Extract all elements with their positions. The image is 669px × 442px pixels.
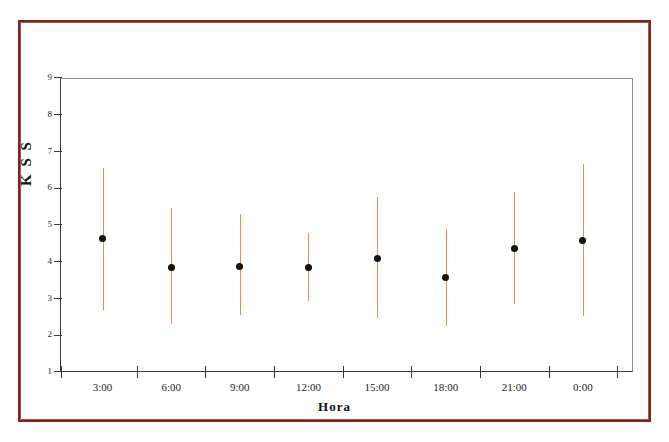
y-axis-tick-label: 9 (36, 72, 52, 82)
y-axis-title: K S S (18, 140, 35, 186)
x-axis-tick (549, 366, 550, 378)
x-axis-tick (343, 366, 344, 378)
data-point (236, 263, 243, 270)
x-axis-title: Hora (0, 399, 669, 415)
x-axis-tick-label: 15:00 (347, 381, 407, 393)
x-axis-tick (411, 366, 412, 378)
y-axis-tick-label: 2 (36, 329, 52, 339)
x-axis-tick-label: 21:00 (484, 381, 544, 393)
y-axis-tick-label: 3 (36, 293, 52, 303)
y-axis-tick-label: 6 (36, 182, 52, 192)
y-axis-tick-label: 8 (36, 109, 52, 119)
x-axis-tick-label: 6:00 (141, 381, 201, 393)
y-axis-tick-label: 4 (36, 256, 52, 266)
kss-hora-errorbar-chart: 123456789 K S S 3:006:009:0012:0015:0018… (0, 0, 669, 442)
y-axis-tick (54, 335, 62, 336)
x-axis-tick (205, 366, 206, 378)
x-axis-tick (137, 366, 138, 378)
x-axis-tick (61, 366, 62, 378)
x-axis-tick (274, 366, 275, 378)
y-axis-tick-label: 5 (36, 219, 52, 229)
x-axis-tick-label: 18:00 (416, 381, 476, 393)
figure-page: 123456789 K S S 3:006:009:0012:0015:0018… (0, 0, 669, 442)
data-point (374, 255, 381, 262)
data-point (168, 264, 175, 271)
y-axis-tick (54, 188, 62, 189)
x-axis-tick-label: 0:00 (553, 381, 613, 393)
x-axis-tick-label: 12:00 (278, 381, 338, 393)
x-axis-tick-label: 9:00 (210, 381, 270, 393)
y-axis-tick-label: 1 (36, 366, 52, 376)
x-axis-tick (617, 366, 618, 378)
y-axis-tick (54, 151, 62, 152)
y-axis-tick (54, 77, 62, 78)
plot-area-frame (60, 78, 633, 372)
y-axis-tick (54, 261, 62, 262)
y-axis-tick (54, 114, 62, 115)
data-point (511, 245, 518, 252)
x-axis-tick-label: 3:00 (73, 381, 133, 393)
y-axis-tick-label: 7 (36, 146, 52, 156)
x-axis-tick (480, 366, 481, 378)
y-axis-tick (54, 224, 62, 225)
y-axis-tick (54, 298, 62, 299)
